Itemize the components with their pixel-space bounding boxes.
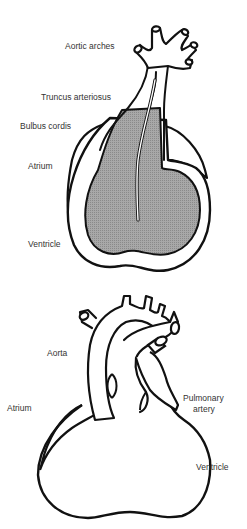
label-aortic-arches: Aortic arches <box>65 41 115 51</box>
label-pulmonary: Pulmonary <box>183 393 224 403</box>
label-ventricle-adult: Ventricle <box>196 462 229 472</box>
label-artery: artery <box>193 404 215 414</box>
embryonic-heart-drawing <box>0 0 247 529</box>
label-atrium-adult: Atrium <box>7 403 32 413</box>
label-bulbus-cordis: Bulbus cordis <box>20 121 71 131</box>
label-truncus-arteriosus: Truncus arteriosus <box>41 92 111 102</box>
label-atrium: Atrium <box>28 161 53 171</box>
label-aorta: Aorta <box>47 348 67 358</box>
aortic-arches <box>133 26 198 69</box>
label-ventricle: Ventricle <box>28 239 61 249</box>
